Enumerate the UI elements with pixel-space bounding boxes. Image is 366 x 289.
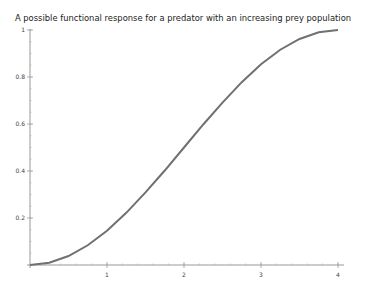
x-tick-label: 4 <box>336 271 340 278</box>
line-chart: 12340.20.40.60.81 <box>0 0 366 289</box>
y-tick-label: 0.2 <box>15 214 25 221</box>
y-tick-label: 0.8 <box>15 73 25 80</box>
y-tick-label: 0.6 <box>15 120 25 127</box>
x-tick-label: 2 <box>182 271 186 278</box>
x-tick-label: 1 <box>105 271 109 278</box>
data-line <box>30 30 338 265</box>
y-tick-label: 0.4 <box>15 167 25 174</box>
y-tick-label: 1 <box>21 26 25 33</box>
ticks: 12340.20.40.60.81 <box>15 26 340 278</box>
x-tick-label: 3 <box>259 271 263 278</box>
axes <box>27 29 344 268</box>
